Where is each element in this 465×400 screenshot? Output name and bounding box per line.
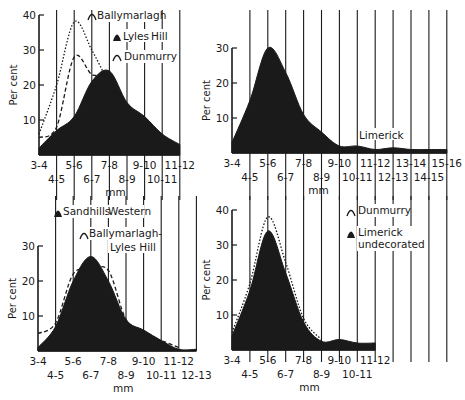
- y-axis-label: Per cent: [201, 259, 212, 300]
- legend-label-ballymarlagh: Ballymarlagh: [97, 9, 166, 21]
- y-tick-label: 20: [23, 79, 36, 91]
- legend-filled-marker-icon: [113, 35, 121, 42]
- x-tick-label: 8-9: [313, 368, 330, 380]
- x-tick-label: 10-11: [147, 173, 178, 185]
- x-tick-label: 8-9: [313, 171, 330, 183]
- chart-panel-bottom-right: 10203040Per cent3-44-55-66-77-88-99-1010…: [201, 196, 447, 393]
- x-tick-label: 5-6: [259, 354, 276, 366]
- y-axis-label: Per cent: [8, 64, 19, 105]
- y-tick-label: 30: [22, 240, 35, 252]
- legend-label-dunmurry: Dunmurry: [358, 204, 411, 216]
- y-tick-label: 40: [216, 204, 229, 216]
- x-tick-label: 4-5: [241, 368, 258, 380]
- x-axis-label: mm: [299, 381, 319, 393]
- legend-label-ballymarlagh-lyles: Ballymarlagh-: [89, 227, 162, 239]
- x-tick-label: 11-12: [165, 159, 196, 171]
- legend-label-western: Western: [108, 205, 151, 217]
- x-tick-label: 7-8: [295, 354, 312, 366]
- legend-hollow-marker-icon: [347, 211, 355, 217]
- x-axis-label: mm: [308, 184, 328, 196]
- x-tick-label: 11-12: [164, 355, 195, 367]
- legend-label-lyles: Lyles: [123, 30, 149, 42]
- y-axis-label: Per cent: [201, 80, 212, 121]
- legend-filled-marker-icon: [347, 232, 355, 239]
- y-tick-label: 10: [22, 310, 35, 322]
- y-tick-label: 20: [216, 274, 229, 286]
- x-tick-label: 12-13: [378, 171, 409, 183]
- x-tick-label: 3-4: [29, 355, 46, 367]
- x-tick-label: 7-8: [100, 355, 117, 367]
- x-tick-label: 3-4: [30, 159, 47, 171]
- x-tick-label: 5-6: [259, 157, 276, 169]
- legend-label-dunmurry: Dunmurry: [124, 50, 177, 62]
- x-tick-label: 5-6: [65, 355, 82, 367]
- x-tick-label: 11-12: [360, 157, 391, 169]
- x-tick-label: 6-7: [82, 369, 99, 381]
- legend-hollow-marker-icon: [80, 234, 88, 240]
- x-tick-label: 6-7: [83, 173, 100, 185]
- y-tick-label: 10: [216, 309, 229, 321]
- x-tick-label: 10-11: [342, 171, 373, 183]
- x-tick-label: 7-8: [101, 159, 118, 171]
- y-axis-label: Per cent: [7, 278, 18, 319]
- legend-label-limerick: Limerick: [358, 226, 403, 238]
- x-tick-label: 7-8: [295, 157, 312, 169]
- x-tick-label: 4-5: [241, 171, 258, 183]
- x-tick-label: 10-11: [146, 369, 177, 381]
- series-filled-sandhills-western: [38, 257, 196, 352]
- y-tick-label: 20: [216, 77, 229, 89]
- chart-panel-top-right: 102030Per cent3-44-55-66-77-88-99-1010-1…: [201, 10, 462, 200]
- x-tick-label: 6-7: [277, 171, 294, 183]
- x-tick-label: 10-11: [342, 368, 373, 380]
- legend-label-hill: Hill: [151, 30, 168, 42]
- legend-label-lyles-hill: Lyles Hill: [110, 241, 156, 253]
- legend-label-undecorated: undecorated: [358, 238, 425, 250]
- x-tick-label: 11-12: [360, 354, 391, 366]
- x-tick-label: 12-13: [181, 369, 212, 381]
- y-tick-label: 30: [23, 44, 36, 56]
- x-tick-label: 3-4: [223, 354, 240, 366]
- x-axis-label: mm: [113, 382, 133, 394]
- chart-panel-bottom-left: 102030Per cent3-44-55-66-77-88-99-1010-1…: [7, 196, 212, 394]
- legend-hollow-marker-icon: [113, 56, 121, 62]
- x-tick-label: 14-15: [414, 171, 445, 183]
- x-tick-label: 9-10: [133, 159, 157, 171]
- x-tick-label: 8-9: [118, 173, 135, 185]
- figure: 10203040Per cent3-44-55-66-77-88-99-1010…: [0, 0, 465, 400]
- y-tick-label: 40: [23, 9, 36, 21]
- series-filled-lyles-hill: [39, 70, 180, 155]
- x-tick-label: 15-16: [432, 157, 463, 169]
- y-tick-label: 10: [23, 114, 36, 126]
- x-tick-label: 4-5: [48, 173, 65, 185]
- x-tick-label: 9-10: [132, 355, 156, 367]
- x-tick-label: 3-4: [223, 157, 240, 169]
- y-tick-label: 30: [216, 42, 229, 54]
- y-tick-label: 10: [216, 112, 229, 124]
- x-tick-label: 8-9: [117, 369, 134, 381]
- legend-label-limerick: Limerick: [359, 129, 404, 141]
- x-tick-label: 4-5: [47, 369, 64, 381]
- legend-label-sandhills: Sandhills: [63, 205, 110, 217]
- y-tick-label: 30: [216, 239, 229, 251]
- y-tick-label: 20: [22, 275, 35, 287]
- x-tick-label: 13-14: [396, 157, 427, 169]
- x-tick-label: 5-6: [66, 159, 83, 171]
- x-tick-label: 9-10: [327, 354, 351, 366]
- x-tick-label: 9-10: [327, 157, 351, 169]
- x-tick-label: 6-7: [277, 368, 294, 380]
